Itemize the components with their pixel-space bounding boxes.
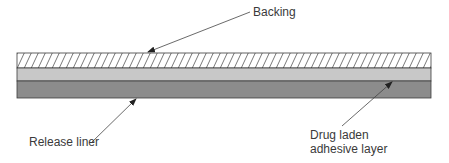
patch-diagram: Backing Release liner Drug laden adhesiv…: [0, 0, 449, 163]
backing-label: Backing: [253, 5, 296, 19]
adhesive-label-line1: Drug laden: [310, 128, 387, 142]
backing-arrow: [148, 12, 250, 52]
release-liner-layer: [17, 81, 431, 98]
release-liner-label: Release liner: [29, 135, 99, 149]
adhesive-layer: [17, 68, 431, 81]
adhesive-label-line2: adhesive layer: [310, 142, 387, 156]
adhesive-layer-label: Drug laden adhesive layer: [310, 128, 387, 156]
backing-layer: [17, 53, 431, 68]
